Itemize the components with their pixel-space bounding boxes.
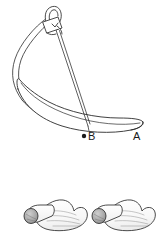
specimen-left [24,200,87,231]
label-point-a: A [133,130,141,142]
figure-root: B A [0,0,159,248]
point-b-label: B [88,130,95,142]
point-b-dot [82,134,86,138]
main-diagram-panel: B A [13,6,144,142]
specimen-right [92,200,155,231]
rolled-tube-end [24,209,38,224]
point-a-label: A [133,130,141,142]
anatomical-line-diagram: B A [0,0,159,248]
label-point-b: B [82,130,96,142]
rolled-tube-end [92,209,106,224]
